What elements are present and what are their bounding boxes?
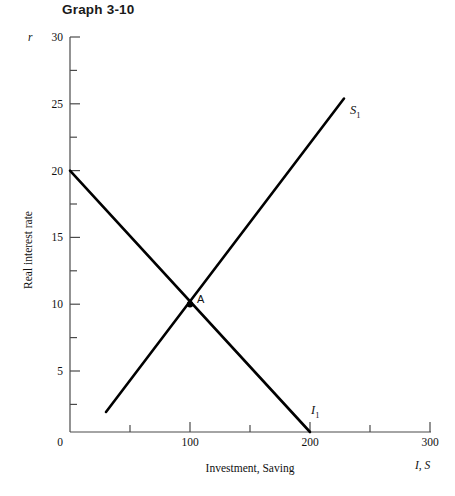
chart-plot-area (0, 0, 455, 496)
x-axis-variable: I, S (415, 459, 430, 471)
x-tick-label-100: 100 (170, 436, 210, 448)
x-tick-label-300: 300 (410, 436, 450, 448)
curve-label-i1-subscript: 1 (315, 410, 319, 420)
curve-label-i1: I1 (311, 403, 319, 420)
y-tick-label-30: 30 (33, 31, 63, 43)
curve-label-s1: S1 (350, 103, 361, 120)
y-tick-label-25: 25 (33, 98, 63, 110)
y-tick-label-0: 0 (33, 436, 63, 448)
y-tick-label-10: 10 (33, 298, 63, 310)
chart-svg (0, 0, 455, 496)
y-tick-label-20: 20 (33, 165, 63, 177)
x-tick-label-200: 200 (290, 436, 330, 448)
curve-label-s1-subscript: 1 (356, 110, 360, 120)
y-tick-label-5: 5 (33, 365, 63, 377)
x-axis-minor-ticks (130, 425, 370, 432)
equilibrium-point-a-label: A (197, 293, 204, 305)
saving-curve-s1 (106, 99, 344, 413)
equilibrium-point-a-marker (187, 301, 193, 307)
x-axis-title: Investment, Saving (150, 462, 350, 474)
y-tick-label-15: 15 (33, 231, 63, 243)
y-axis-title: Real interest rate (22, 180, 34, 320)
y-axis-variable: r (28, 31, 32, 43)
